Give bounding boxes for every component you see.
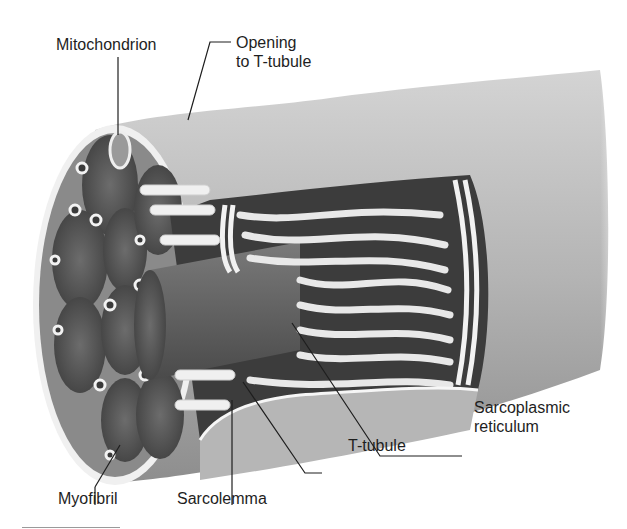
label-mitochondrion: Mitochondrion — [56, 35, 157, 54]
label-sarcolemma: Sarcolemma — [177, 489, 267, 508]
label-sarcoplasmic-line2: reticulum — [474, 417, 539, 436]
muscle-fiber-diagram: Mitochondrion Opening to T-tubule Sarcop… — [0, 0, 627, 529]
label-opening-line1: Opening — [236, 33, 297, 52]
label-myofibril: Myofibril — [58, 489, 118, 508]
label-opening-line2: to T-tubule — [236, 52, 311, 71]
label-sarcoplasmic-line1: Sarcoplasmic — [474, 398, 570, 417]
label-t-tubule: T-tubule — [348, 436, 406, 455]
muscle-fiber-illustration — [0, 0, 627, 529]
footer-rule — [22, 527, 120, 528]
